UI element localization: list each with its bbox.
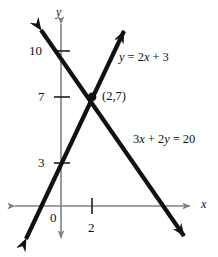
x-tick-label-2: 2 [88,221,95,234]
line-y-equals-2x-plus-3 [26,31,124,239]
line1-equation-label: y=2x+3 [119,51,169,64]
x-axis-label: x [201,198,206,210]
intersection-point-label: (2,7) [102,90,126,103]
y-tick-label-3: 3 [38,156,45,169]
y-tick-label-7: 7 [38,90,45,103]
line1-eq-lhs: y [119,50,125,64]
line2-eq-plus: + [148,132,155,146]
line1-eq-sign: = [128,50,135,64]
line1-eq-const: 3 [163,50,169,64]
line2-equation-label: 3x+2y=20 [133,133,195,146]
graph-canvas [0,0,218,257]
line2-eq-rhs: 20 [183,132,196,146]
origin-label: 0 [50,211,57,224]
intersection-point-marker [88,93,97,102]
line1-eq-plus: + [152,50,159,64]
line1-eq-var: x [144,50,150,64]
line2-eq-t2var: y [164,132,170,146]
line2-eq-sign: = [173,132,180,146]
y-tick-label-10: 10 [29,44,42,57]
graph-figure: y x 0 10 7 3 2 y=2x+3 3x+2y=20 (2,7) [0,0,218,257]
y-axis-label: y [56,6,61,18]
line2-eq-t1var: x [139,132,145,146]
line1-segment [26,31,124,239]
